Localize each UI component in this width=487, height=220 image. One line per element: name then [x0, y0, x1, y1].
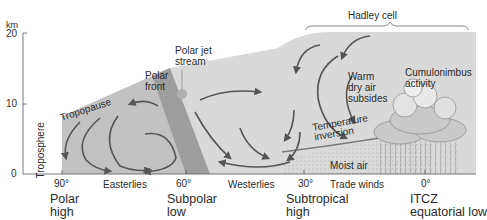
pressure-zone-subpolar-low-1: Subpolar — [167, 192, 217, 206]
warm-air-label-1: Warm — [348, 71, 374, 82]
warm-air-label-3: subsides — [348, 93, 387, 104]
polar-front-label-2: front — [145, 81, 165, 92]
cumulonimbus-label-2: activity — [405, 78, 436, 89]
y-tick-10: 10 — [6, 98, 17, 109]
y-tick-20: 20 — [6, 28, 17, 39]
warm-air-label-2: dry air — [348, 82, 376, 93]
polar-jet-label-2: stream — [175, 56, 206, 67]
latitude-60: 60° — [176, 178, 191, 189]
wind-belt-easterlies: Easterlies — [103, 179, 147, 190]
cumulonimbus-label-1: Cumulonimbus — [405, 67, 472, 78]
polar-jet-stream-marker — [177, 89, 187, 99]
latitude-30: 30° — [298, 178, 313, 189]
polar-jet-label-1: Polar jet — [175, 45, 212, 56]
moist-air-label: Moist air — [330, 160, 368, 171]
pressure-zone-subpolar-low-2: low — [167, 205, 186, 219]
pressure-zone-subtropical-high-1: Subtropical — [286, 192, 349, 206]
latitude-90: 90° — [54, 178, 69, 189]
latitude-0: 0° — [421, 178, 431, 189]
hadley-cell-label: Hadley cell — [348, 10, 397, 21]
wind-belt-trade-winds: Trade winds — [330, 179, 384, 190]
pressure-zone-polar-high-2: high — [50, 205, 74, 219]
troposphere-label: Troposphere — [35, 119, 46, 179]
wind-belt-westerlies: Westerlies — [228, 179, 275, 190]
hadley-cell-bracket — [306, 22, 468, 30]
pressure-zone-itcz-1: ITCZ — [410, 192, 438, 206]
pressure-zone-subtropical-high-2: high — [286, 205, 310, 219]
polar-front-label-1: Polar — [145, 70, 168, 81]
pressure-zone-polar-high-1: Polar — [50, 192, 79, 206]
y-tick-0: 0 — [11, 168, 17, 179]
pressure-zone-itcz-2: equatorial low — [410, 205, 487, 219]
